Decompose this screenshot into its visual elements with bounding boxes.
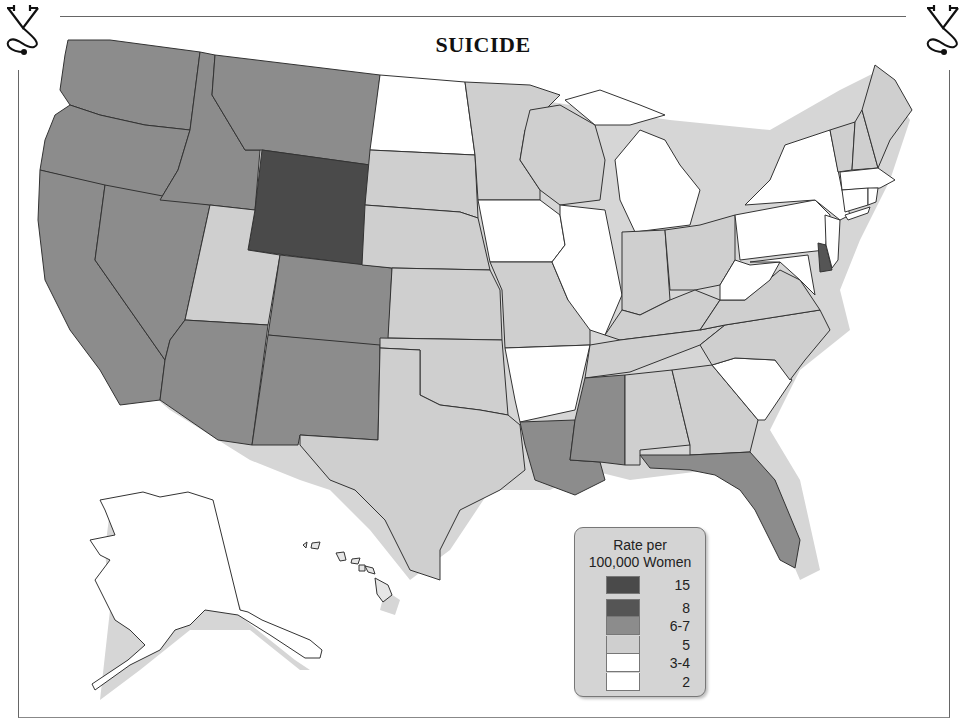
state-hawaii xyxy=(303,542,392,602)
legend-title: Rate per 100,000 Women xyxy=(575,537,705,571)
legend-swatch-5 xyxy=(606,636,640,654)
legend-label: 5 xyxy=(640,637,690,653)
legend-label: 6-7 xyxy=(640,618,690,634)
legend-item: 15 xyxy=(606,576,690,595)
state-kansas xyxy=(388,268,502,340)
legend-label: 3-4 xyxy=(640,655,690,671)
legend-swatch-6-7 xyxy=(606,617,640,635)
map-legend: Rate per 100,000 Women 15 8 6-7 5 3-4 2 xyxy=(574,527,706,697)
legend-swatch-2 xyxy=(606,673,640,691)
legend-item: 6-7 xyxy=(606,617,690,636)
legend-label: 15 xyxy=(640,577,690,593)
us-choropleth-map xyxy=(0,0,966,728)
legend-item: 2 xyxy=(606,673,690,692)
state-iowa xyxy=(478,200,565,262)
legend-item: 3-4 xyxy=(606,654,690,673)
state-north-dakota xyxy=(370,75,475,155)
state-new-mexico xyxy=(252,335,380,445)
legend-rows: 15 8 6-7 5 3-4 2 xyxy=(606,576,690,691)
legend-swatch-3-4 xyxy=(606,654,640,672)
legend-item: 8 xyxy=(606,599,690,618)
legend-title-line2: 100,000 Women xyxy=(575,554,705,571)
legend-label: 2 xyxy=(640,674,690,690)
state-arizona xyxy=(160,320,268,445)
legend-label: 8 xyxy=(640,600,690,616)
legend-swatch-15 xyxy=(606,576,640,594)
legend-swatch-8 xyxy=(606,599,640,617)
state-indiana xyxy=(622,230,670,315)
state-wyoming xyxy=(248,150,370,265)
legend-item: 5 xyxy=(606,636,690,655)
state-colorado xyxy=(268,255,392,348)
legend-title-line1: Rate per xyxy=(575,537,705,554)
